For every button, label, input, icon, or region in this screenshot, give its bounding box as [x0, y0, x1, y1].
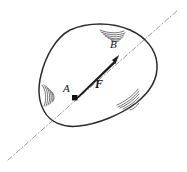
- force-label: F: [94, 77, 103, 91]
- figure-container: A B F: [0, 0, 187, 172]
- mechanics-diagram: A B F: [0, 0, 187, 172]
- point-a-marker: [72, 95, 77, 100]
- point-b-label: B: [110, 38, 117, 50]
- point-a-label: A: [62, 82, 70, 94]
- diagram-background: [0, 0, 187, 172]
